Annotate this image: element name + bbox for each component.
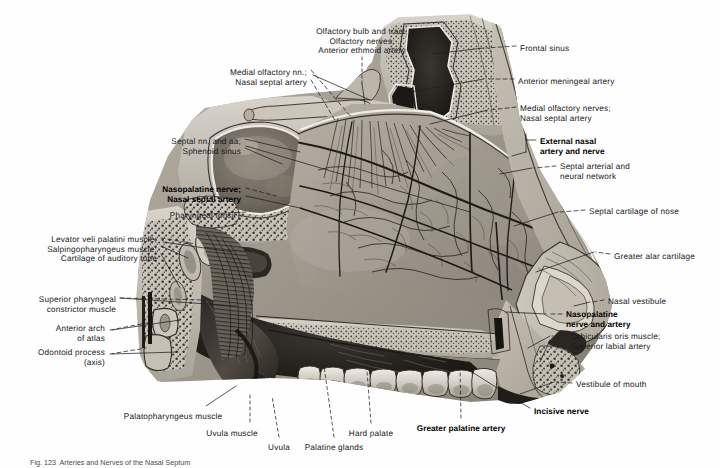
label-line: Medial olfactory nerves; xyxy=(520,104,611,114)
label-line: Greater alar cartilage xyxy=(614,252,695,262)
label-orbicularis-oris-muscle: Orbicularis oris muscle;Superior labial … xyxy=(571,332,660,351)
label-line: artery and nerve xyxy=(540,147,605,157)
label-external-nasal-artery-and-nerve: External nasalartery and nerve xyxy=(540,137,605,156)
label-line: Frontal sinus xyxy=(520,44,569,54)
label-nasal-vestibule: Nasal vestibule xyxy=(608,297,666,307)
label-line: neural network xyxy=(560,172,630,182)
label-olfactory-bulb-and-tract: Olfactory bulb and tract;Olfactory nerve… xyxy=(242,27,482,56)
label-incisive-nerve: Incisive nerve xyxy=(534,407,589,417)
label-palatopharyngeus-muscle: Palatopharyngeus muscle xyxy=(53,412,293,422)
label-line: Superior pharyngeal xyxy=(0,295,116,305)
label-line: Medial olfactory nn.; xyxy=(0,68,307,78)
label-line: Orbicularis oris muscle; xyxy=(571,332,660,342)
label-septal-cartilage-of-nose: Septal cartilage of nose xyxy=(589,207,679,217)
label-line: Incisive nerve xyxy=(534,407,589,417)
label-line: Anterior meningeal artery xyxy=(518,77,614,87)
label-line: Sphenoid sinus xyxy=(0,147,241,157)
label-line: Palatopharyngeus muscle xyxy=(53,412,293,422)
label-line: Septal arterial and xyxy=(560,162,630,172)
label-line: Odontoid process xyxy=(0,348,105,358)
label-line: Nasopalatine nerve; xyxy=(0,185,241,195)
label-line: Levator veli palatini muscle; xyxy=(0,235,157,245)
label-line: Nasal septal artery xyxy=(0,78,307,88)
label-nasopalatine-nerve: Nasopalatine nerve;Nasal septal artery xyxy=(0,185,241,204)
label-line: Nasal vestibule xyxy=(608,297,666,307)
label-line: Nasopalatine xyxy=(566,310,631,320)
label-palatine-glands: Palatine glands xyxy=(214,443,454,453)
label-line: constrictor muscle xyxy=(0,305,116,315)
label-line: Anterior arch xyxy=(0,324,105,334)
label-pharyngeal-tonsil: Pharyngeal tonsil - xyxy=(0,211,241,221)
label-vestibule-of-mouth: Vestibule of mouth xyxy=(576,380,647,390)
label-line: Greater palatine artery xyxy=(341,424,581,434)
label-nasopalatine-nerve-and-artery: Nasopalatinenerve and artery xyxy=(566,310,631,329)
label-anterior-arch-of-atlas: Anterior archof atlas xyxy=(0,324,105,343)
label-line: External nasal xyxy=(540,137,605,147)
label-frontal-sinus: Frontal sinus xyxy=(520,44,569,54)
label-levator-veli-palatini: Levator veli palatini muscle;Salpingopha… xyxy=(0,235,157,264)
label-septal-arterial-and-neural-network: Septal arterial andneural network xyxy=(560,162,630,181)
label-line: Olfactory nerves; xyxy=(242,37,482,47)
label-line: of atlas xyxy=(0,334,105,344)
label-greater-palatine-artery: Greater palatine artery xyxy=(341,424,581,434)
label-septal-nn-and-aa: Septal nn. and aa;Sphenoid sinus xyxy=(0,137,241,156)
figure-caption: Fig. 123 Arteries and Nerves of the Nasa… xyxy=(30,458,190,467)
label-line: Septal cartilage of nose xyxy=(589,207,679,217)
label-line: Pharyngeal tonsil - xyxy=(0,211,241,221)
label-medial-olfactory-nerves: Medial olfactory nerves;Nasal septal art… xyxy=(520,104,611,123)
label-line: Anterior ethmoid artery xyxy=(242,46,482,56)
label-line: (axis) xyxy=(0,358,105,368)
label-line: Palatine glands xyxy=(214,443,454,453)
label-line: Nasal septal artery xyxy=(0,195,241,205)
label-line: Salpingopharyngeus muscle; xyxy=(0,245,157,255)
label-line: Septal nn. and aa; xyxy=(0,137,241,147)
label-line: Vestibule of mouth xyxy=(576,380,647,390)
label-anterior-meningeal-artery: Anterior meningeal artery xyxy=(518,77,614,87)
anatomy-plate: Olfactory bulb and tract;Olfactory nerve… xyxy=(0,0,720,468)
label-greater-alar-cartilage: Greater alar cartilage xyxy=(614,252,695,262)
label-line: nerve and artery xyxy=(566,320,631,330)
label-medial-olfactory-nn: Medial olfactory nn.;Nasal septal artery xyxy=(0,68,307,87)
label-line: Olfactory bulb and tract; xyxy=(242,27,482,37)
label-superior-pharyngeal-constrictor: Superior pharyngealconstrictor muscle xyxy=(0,295,116,314)
label-line: Cartilage of auditory tube xyxy=(0,254,157,264)
label-odontoid-process: Odontoid process(axis) xyxy=(0,348,105,367)
label-line: Superior labial artery xyxy=(571,342,660,352)
label-line: Nasal septal artery xyxy=(520,114,611,124)
